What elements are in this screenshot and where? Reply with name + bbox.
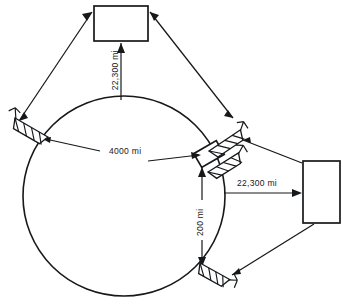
label-geo-altitude-right: 22,300 mi — [237, 179, 277, 188]
beam-right-satellite-to-lower-station — [232, 224, 314, 275]
label-low-orbit-altitude: 200 mi — [196, 209, 205, 236]
diagram-canvas — [0, 0, 343, 308]
satellite-top-box — [94, 6, 148, 41]
beam-top-satellite-to-right-station — [150, 12, 233, 118]
label-earth-diameter: 4000 mi — [109, 147, 141, 156]
satellite-diagram: 22,300 mi 4000 mi 200 mi 22,300 mi — [0, 0, 343, 308]
earth-circle — [23, 96, 225, 296]
dish-antenna-upper-left — [2, 106, 52, 146]
label-geo-altitude-top: 22,300 mi — [111, 50, 120, 90]
satellite-right-box — [303, 161, 340, 223]
beam-right-satellite-to-mid-station — [243, 137, 302, 163]
dimension-geo-altitude-right — [224, 189, 302, 197]
